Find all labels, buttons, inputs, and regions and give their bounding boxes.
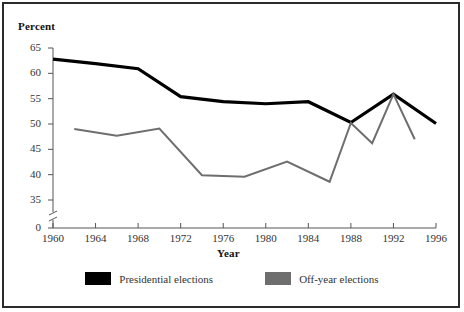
- chart-legend: Presidential electionsOff-year elections: [0, 272, 464, 285]
- series-line-presidential: [53, 59, 436, 123]
- legend-label: Off-year elections: [299, 273, 379, 285]
- gray-square-swatch: [265, 272, 291, 285]
- line-chart-plot: [0, 0, 464, 312]
- y-tick-label: 65: [15, 41, 41, 53]
- x-tick-label: 1988: [333, 232, 369, 244]
- legend-label: Presidential elections: [119, 273, 213, 285]
- series-line-off-year: [74, 94, 414, 182]
- chart-series: [53, 59, 436, 182]
- x-tick-label: 1980: [248, 232, 284, 244]
- x-tick-label: 1992: [375, 232, 411, 244]
- legend-item: Off-year elections: [265, 272, 379, 285]
- y-tick-label: 55: [15, 92, 41, 104]
- chart-axes: [48, 48, 436, 228]
- y-tick-label: 50: [15, 117, 41, 129]
- y-tick-label: 60: [15, 66, 41, 78]
- x-tick-label: 1996: [418, 232, 454, 244]
- x-tick-label: 1972: [163, 232, 199, 244]
- x-tick-label: 1984: [290, 232, 326, 244]
- y-tick-label: 45: [15, 142, 41, 154]
- y-tick-label: 35: [15, 193, 41, 205]
- x-tick-label: 1964: [78, 232, 114, 244]
- x-tick-label: 1960: [35, 232, 71, 244]
- y-tick-label: 40: [15, 168, 41, 180]
- x-tick-label: 1976: [205, 232, 241, 244]
- legend-item: Presidential elections: [85, 272, 213, 285]
- black-square-swatch: [85, 272, 111, 285]
- x-tick-label: 1968: [120, 232, 156, 244]
